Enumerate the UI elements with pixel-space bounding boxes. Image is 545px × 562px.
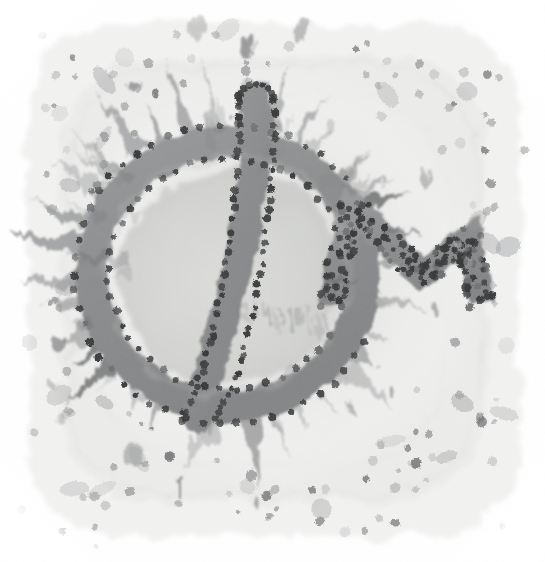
artwork-svg: [0, 0, 545, 562]
paper-grain-overlay: [0, 0, 545, 562]
artwork-canvas: [0, 0, 545, 562]
